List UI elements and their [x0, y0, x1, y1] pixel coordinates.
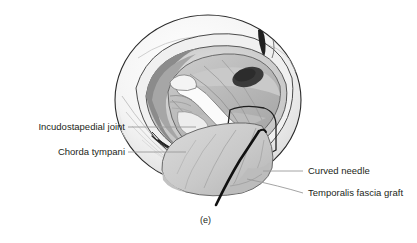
figure-caption: (e) [200, 215, 211, 225]
label-chorda-tympani: Chorda tympani [10, 147, 125, 157]
figure-container: Incudostapedial joint Chorda tympani Cur… [0, 0, 417, 243]
label-temporalis-fascia-graft: Temporalis fascia graft [308, 188, 403, 198]
label-curved-needle: Curved needle [308, 166, 370, 176]
label-incudostapedial-joint: Incudostapedial joint [10, 122, 125, 132]
